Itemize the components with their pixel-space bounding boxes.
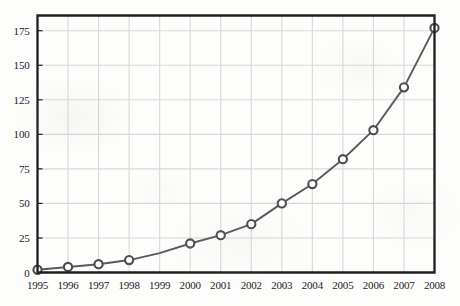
x-axis-tick-label: 2006 [363, 279, 384, 291]
data-point-markers [33, 24, 438, 274]
x-axis-tick-label: 2005 [332, 279, 353, 291]
x-axis-tick-label: 2004 [302, 279, 323, 291]
x-axis-tick-label: 1997 [88, 279, 109, 291]
y-axis-tick-label: 0 [0, 267, 30, 279]
y-axis-tick-label: 25 [0, 232, 30, 244]
x-axis-tick-label: 2000 [180, 279, 201, 291]
data-point-marker [125, 256, 133, 264]
y-axis-tick-label: 75 [0, 163, 30, 175]
x-axis-tick-label: 2007 [393, 279, 414, 291]
data-point-marker [400, 83, 408, 91]
data-point-marker [64, 263, 72, 271]
data-point-marker [339, 155, 347, 163]
y-axis-tick-label: 100 [0, 128, 30, 140]
data-line-series-1 [38, 28, 435, 270]
y-axis-tick-label: 175 [0, 25, 30, 37]
x-axis-tick-label: 2002 [241, 279, 262, 291]
data-point-marker [247, 220, 255, 228]
x-axis-tick-label: 2003 [271, 279, 292, 291]
data-point-marker [278, 199, 286, 207]
x-axis-tick-label: 1998 [119, 279, 140, 291]
data-point-marker [186, 239, 194, 247]
y-axis-tick-label: 50 [0, 197, 30, 209]
data-point-marker [217, 231, 225, 239]
data-point-marker [94, 260, 102, 268]
y-axis-tick-label: 125 [0, 94, 30, 106]
x-axis-tick-label: 1999 [149, 279, 170, 291]
chart-plot-svg [0, 0, 460, 306]
plot-frame [38, 16, 435, 273]
line-chart-figure: 0255075100125150175 19951996199719981999… [0, 0, 460, 306]
x-axis-tick-label: 1995 [27, 279, 48, 291]
x-axis-tick-label: 1996 [57, 279, 78, 291]
y-axis-tick-label: 150 [0, 59, 30, 71]
x-axis-tick-label: 2001 [210, 279, 231, 291]
gridlines [38, 16, 435, 273]
data-point-marker [369, 126, 377, 134]
data-point-marker [308, 180, 316, 188]
x-axis-tick-label: 2008 [424, 279, 445, 291]
